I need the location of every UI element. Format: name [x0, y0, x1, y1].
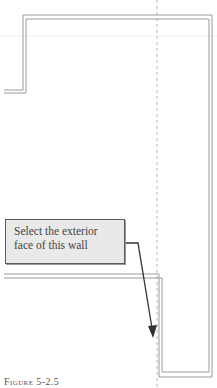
- upper-wall-outer-face: [4, 15, 212, 377]
- callout-leader-line: [125, 243, 152, 328]
- figure-caption: Figure 5-2.5: [4, 376, 59, 387]
- callout-text-line-1: Select the exterior: [14, 224, 116, 238]
- callout-box: Select the exterior face of this wall: [5, 219, 125, 264]
- upper-wall-inner-face: [4, 19, 209, 372]
- floor-plan-drawing: [0, 0, 217, 388]
- arrow-head-icon: [148, 325, 157, 338]
- callout-text-line-2: face of this wall: [14, 238, 116, 252]
